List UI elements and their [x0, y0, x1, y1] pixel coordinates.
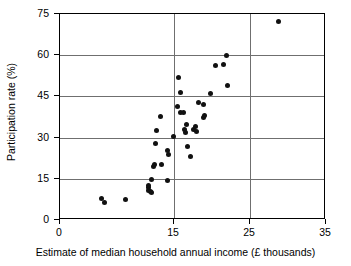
data-point: [213, 63, 218, 68]
data-point: [188, 154, 193, 159]
x-axis-title: Estimate of median household annual inco…: [0, 246, 351, 258]
data-point: [194, 129, 199, 134]
data-point: [225, 83, 230, 88]
x-tick-label: 15: [153, 227, 193, 238]
y-tick-label: 15: [9, 173, 49, 184]
data-point: [159, 162, 164, 167]
data-point: [153, 141, 158, 146]
y-tick-label: 60: [9, 49, 49, 60]
data-point: [276, 19, 281, 24]
data-point: [146, 183, 151, 188]
data-point: [123, 197, 128, 202]
gridline-horizontal: [60, 138, 324, 139]
gridline-horizontal: [60, 179, 324, 180]
x-tick-label: 25: [229, 227, 269, 238]
data-point: [102, 200, 107, 205]
x-tick-mark: [173, 219, 174, 224]
data-point: [183, 130, 188, 135]
x-tick-mark: [59, 219, 60, 224]
data-point: [166, 152, 171, 157]
data-point: [201, 102, 206, 107]
data-point: [181, 110, 186, 115]
data-point: [152, 162, 157, 167]
data-point: [185, 144, 190, 149]
scatter-chart-figure: Participation rate (%) 01530456075 01525…: [0, 0, 351, 266]
y-tick-label: 30: [9, 132, 49, 143]
data-point: [184, 122, 189, 127]
data-point: [196, 100, 201, 105]
gridline-horizontal: [60, 96, 324, 97]
data-point: [149, 190, 154, 195]
x-tick-mark: [249, 219, 250, 224]
data-point: [208, 91, 213, 96]
y-tick-label: 0: [9, 214, 49, 225]
gridline-vertical: [250, 14, 251, 218]
data-point: [202, 113, 207, 118]
data-point: [175, 104, 180, 109]
data-point: [178, 90, 183, 95]
data-point: [154, 128, 159, 133]
data-point: [221, 62, 226, 67]
y-axis-title: Participation rate (%): [2, 2, 20, 222]
gridline-vertical: [174, 14, 175, 218]
data-point: [176, 75, 181, 80]
y-tick-label: 75: [9, 8, 49, 19]
data-point: [224, 53, 229, 58]
plot-area: [59, 13, 325, 219]
x-tick-label: 0: [39, 227, 79, 238]
x-tick-mark: [325, 219, 326, 224]
x-tick-label: 35: [305, 227, 345, 238]
data-point: [171, 134, 176, 139]
data-point: [149, 177, 154, 182]
data-point: [158, 114, 163, 119]
data-point: [165, 178, 170, 183]
y-tick-label: 45: [9, 90, 49, 101]
gridline-horizontal: [60, 55, 324, 56]
